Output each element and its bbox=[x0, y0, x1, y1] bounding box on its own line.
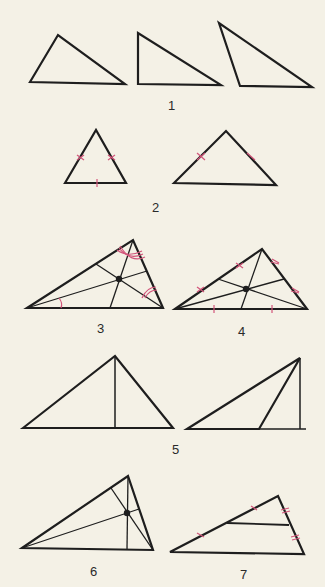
figure-7-label: 7 bbox=[240, 567, 247, 582]
figure-4-group bbox=[175, 249, 307, 309]
figure-4-triangle bbox=[175, 249, 307, 309]
figure-4-tick-marks bbox=[197, 259, 299, 313]
figure-3-bisector-a bbox=[27, 271, 147, 308]
figure-2-label: 2 bbox=[152, 200, 159, 215]
figure-1-group bbox=[30, 23, 312, 87]
figure-2-group bbox=[65, 130, 276, 185]
figure-6-group bbox=[22, 476, 153, 550]
figure-5-group bbox=[23, 356, 306, 429]
figure-7-midline bbox=[227, 523, 289, 525]
figure-1-right-triangle bbox=[138, 33, 221, 85]
figure-4-centroid-point bbox=[243, 286, 249, 292]
figure-6-label: 6 bbox=[90, 564, 97, 579]
figure-5-obtuse-triangle bbox=[187, 358, 300, 429]
figure-6-median bbox=[22, 509, 139, 548]
figure-1-label: 1 bbox=[168, 98, 175, 113]
figure-5-acute-triangle bbox=[23, 356, 173, 428]
figure-6-bisector bbox=[111, 488, 153, 550]
figure-7-group bbox=[170, 496, 304, 554]
figure-4-label: 4 bbox=[238, 324, 245, 339]
figure-2-isosceles-triangle bbox=[174, 131, 276, 185]
figure-4-median-b bbox=[241, 249, 262, 309]
figure-5-label: 5 bbox=[172, 442, 179, 457]
figure-2-equilateral-triangle bbox=[65, 130, 126, 183]
figure-3-label: 3 bbox=[97, 321, 104, 336]
figure-1-obtuse-triangle bbox=[219, 23, 312, 87]
geometry-figures-canvas: 1 2 3 4 5 6 7 bbox=[0, 0, 325, 587]
figure-6-intersection-point bbox=[124, 510, 130, 516]
figure-3-incenter-point bbox=[116, 276, 122, 282]
figure-6-triangle bbox=[22, 476, 153, 550]
figure-1-acute-triangle bbox=[30, 35, 125, 84]
